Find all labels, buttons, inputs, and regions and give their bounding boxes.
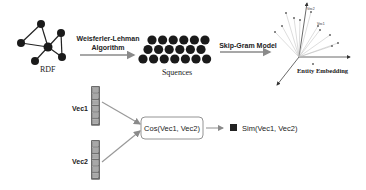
sequences-grid (138, 35, 211, 63)
vector-cell (93, 88, 98, 93)
embedding-y-axis (299, 3, 307, 57)
vector-cell (93, 167, 98, 172)
embedding-point (337, 42, 339, 44)
rdf-node (58, 53, 66, 61)
cosine-label: Cos(Vec1, Vec2) (144, 124, 200, 133)
sequence-dot (160, 54, 169, 63)
sequence-dot (196, 45, 205, 54)
embedding-vector (299, 46, 332, 57)
vec2-label: Vec2 (72, 158, 88, 165)
sequence-dot (200, 35, 209, 44)
embedding-vector (294, 18, 299, 57)
skip-gram-label: Skip-Gram Model (219, 42, 277, 50)
embedding-point (310, 11, 312, 13)
sequence-dot (191, 54, 200, 63)
vector-cell (93, 142, 98, 147)
vec1-to-cos-arrow (102, 102, 140, 124)
embedding-vec2-tag: Vec2 (307, 7, 315, 11)
embedding-point (312, 63, 314, 65)
similarity-square-icon (230, 124, 237, 131)
sequence-dot (165, 45, 174, 54)
vector-cell (93, 119, 98, 124)
wl-algorithm-label-line1: Weisferler-Lehman (77, 35, 140, 42)
rdf-node (37, 20, 45, 28)
vector-cell (93, 154, 98, 159)
embedding-z-axis (277, 57, 299, 85)
sequence-dot (169, 35, 178, 44)
embedding-point (293, 17, 295, 19)
embedding-point (329, 34, 331, 36)
embedding-point (319, 29, 321, 31)
vector-cell (93, 100, 98, 105)
rdf-graph (17, 20, 66, 65)
rdf-node (57, 29, 65, 37)
embedding-vector (299, 26, 318, 57)
rdf-edge (21, 24, 41, 43)
embedding-point (281, 25, 283, 27)
vector-cell (93, 113, 98, 118)
sequence-dot (175, 45, 184, 54)
embedding-vector (282, 26, 299, 57)
vector-cell (93, 160, 98, 165)
vector-cell (93, 173, 98, 178)
entity-embedding-label: Entity Embedding (297, 67, 349, 74)
sequence-dot (190, 35, 199, 44)
sequence-dot (202, 54, 211, 63)
vec2-vector (91, 140, 100, 180)
sequence-dot (149, 54, 158, 63)
embedding-point (331, 45, 333, 47)
rdf-node (17, 39, 25, 47)
sequence-dot (147, 35, 156, 44)
similarity-label: Sim(Vec1, Vec2) (242, 124, 298, 133)
diagram-canvas: RDF Weisferler-Lehman Algorithm Squences… (0, 0, 366, 190)
embedding-vec1-tag: Vec1 (317, 22, 325, 26)
rdf-node (31, 57, 39, 65)
vector-cell (93, 106, 98, 111)
sequence-dot (138, 54, 147, 63)
sequences-label: Squences (162, 68, 192, 77)
embedding-vector (299, 35, 330, 57)
sequence-dot (181, 54, 190, 63)
vector-cell (93, 148, 98, 153)
vec1-vector (91, 86, 100, 126)
embedding-point (274, 31, 276, 33)
vec2-to-cos-arrow (102, 131, 140, 162)
wl-algorithm-label-line2: Algorithm (91, 44, 124, 52)
vector-cell (93, 94, 98, 99)
embedding-point (285, 12, 287, 14)
sequence-dot (154, 45, 163, 54)
embedding-space: Vec2 Vec1 Entity Embedding (274, 3, 350, 85)
rdf-node (44, 43, 53, 52)
sequence-dot (186, 45, 195, 54)
sequence-dot (143, 45, 152, 54)
vec1-label: Vec1 (72, 105, 88, 112)
sequence-dot (170, 54, 179, 63)
rdf-label: RDF (40, 65, 56, 74)
sequence-dot (158, 35, 167, 44)
sequence-dot (179, 35, 188, 44)
embedding-point (299, 19, 301, 21)
